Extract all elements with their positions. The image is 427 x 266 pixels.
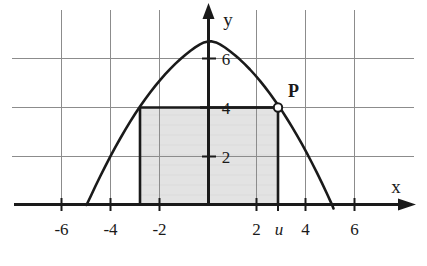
ytick-label-4: 4 <box>222 99 231 118</box>
y-axis-label: y <box>223 9 233 30</box>
ytick-label-6: 6 <box>222 50 231 69</box>
point-p-marker <box>274 103 282 111</box>
xtick-label--2: -2 <box>152 220 166 239</box>
xtick-label-2: 2 <box>252 220 261 239</box>
xtick-label-u: u <box>275 220 284 239</box>
xtick-label-4: 4 <box>301 220 310 239</box>
x-axis-label: x <box>391 176 401 197</box>
parabola-plot: -6 -4 -2 2 u 4 6 2 4 6 y x P <box>0 0 427 266</box>
graph-figure: -6 -4 -2 2 u 4 6 2 4 6 y x P <box>0 0 427 266</box>
xtick-label--4: -4 <box>103 220 118 239</box>
ytick-label-2: 2 <box>222 148 231 167</box>
xtick-label--6: -6 <box>54 220 68 239</box>
xtick-label-6: 6 <box>350 220 359 239</box>
point-p-label: P <box>288 81 299 101</box>
